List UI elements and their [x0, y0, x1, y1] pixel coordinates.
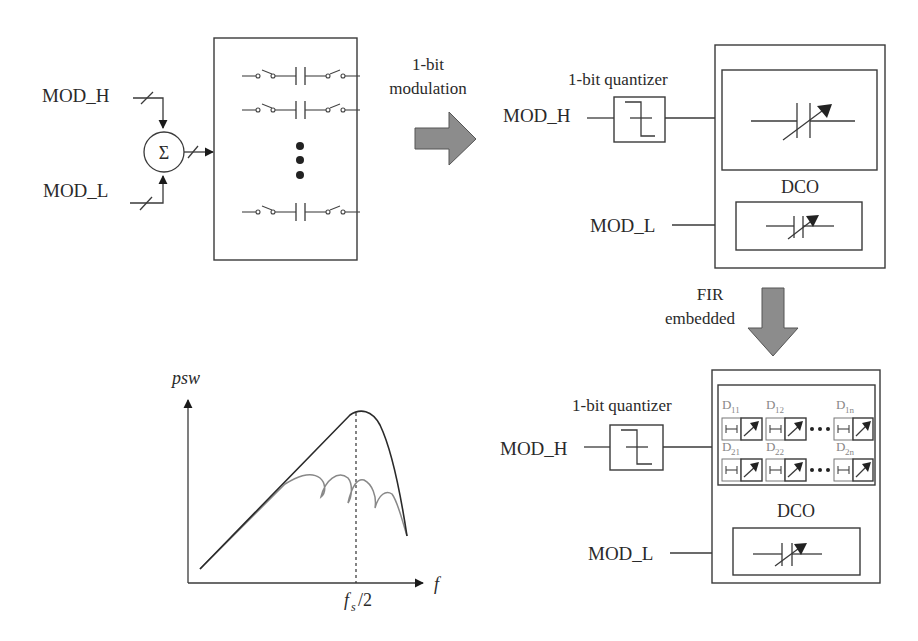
- quantizer-box: [614, 97, 665, 142]
- fir-response-curve: [200, 475, 407, 569]
- fir-cell-d2n: [834, 459, 873, 481]
- svg-text:D: D: [836, 397, 845, 412]
- fir-cell-d22: [766, 459, 806, 481]
- fir-cell-d1n: [834, 418, 873, 440]
- mod-h-label: MOD_H: [503, 105, 571, 126]
- mod-h-label: MOD_H: [42, 85, 110, 106]
- dco-label: DCO: [781, 177, 819, 197]
- sigma-symbol: Σ: [159, 143, 169, 163]
- quantizer-box: [610, 425, 663, 470]
- svg-text:21: 21: [731, 447, 740, 457]
- mod-h-label: MOD_H: [500, 438, 568, 459]
- right-arrow-icon: [415, 112, 476, 165]
- svg-text:11: 11: [731, 405, 740, 415]
- y-axis-label: psw: [170, 368, 200, 388]
- dco-fine-varactor-box: [733, 528, 860, 575]
- down-arrow-icon: [748, 288, 798, 356]
- svg-text:s: s: [351, 600, 356, 614]
- fir-cell-d12: [766, 418, 806, 440]
- svg-text:D: D: [766, 397, 775, 412]
- psw-spectrum-graph: psw f f s /2: [170, 368, 442, 614]
- svg-text:D: D: [722, 397, 731, 412]
- fir-embedded-dco-diagram: MOD_H MOD_L Σ: [0, 0, 918, 641]
- svg-text:D: D: [766, 439, 775, 454]
- svg-text:2n: 2n: [845, 447, 855, 457]
- fir-label-line1: FIR: [697, 285, 724, 304]
- fir-cell-d21: [722, 459, 762, 481]
- transition-label-line1: 1-bit: [412, 55, 444, 74]
- svg-text:/2: /2: [358, 590, 372, 610]
- horizontal-ellipsis-dots: [810, 468, 830, 472]
- mod-l-label: MOD_L: [588, 543, 653, 564]
- top-right-block: 1-bit quantizer MOD_H MOD_L DCO: [503, 45, 885, 268]
- fs-half-tick-label: f s /2: [344, 590, 372, 614]
- fir-cell-d11: [722, 418, 762, 440]
- svg-text:1n: 1n: [845, 405, 855, 415]
- modulation-transition: 1-bit modulation: [389, 55, 476, 165]
- svg-text:D: D: [836, 439, 845, 454]
- mod-l-label: MOD_L: [43, 180, 108, 201]
- mod-l-label: MOD_L: [590, 215, 655, 236]
- mod-l-bus-wire: [130, 176, 163, 210]
- transition-label-line2: modulation: [389, 79, 467, 98]
- bottom-right-block: 1-bit quantizer MOD_H MOD_L D 11 D 12 D …: [500, 370, 880, 583]
- x-axis-label: f: [434, 574, 442, 594]
- dco-label: DCO: [777, 501, 815, 521]
- mod-h-bus-wire: [133, 92, 163, 128]
- summer-node: Σ: [144, 132, 184, 172]
- horizontal-ellipsis-dots: [810, 427, 830, 431]
- svg-text:22: 22: [775, 447, 784, 457]
- fir-label-line2: embedded: [665, 309, 735, 328]
- quantizer-label: 1-bit quantizer: [572, 396, 672, 415]
- left-block: MOD_H MOD_L Σ: [42, 38, 360, 260]
- nominal-response-curve: [200, 411, 407, 569]
- dco-fine-varactor-box: [736, 202, 862, 250]
- fir-transition: FIR embedded: [665, 285, 798, 356]
- svg-text:12: 12: [775, 405, 784, 415]
- svg-text:D: D: [722, 439, 731, 454]
- summer-output-wire: [184, 146, 213, 158]
- quantizer-label: 1-bit quantizer: [568, 70, 668, 89]
- vertical-ellipsis-dots: [296, 142, 304, 179]
- dco-coarse-varactor-box: [722, 70, 877, 170]
